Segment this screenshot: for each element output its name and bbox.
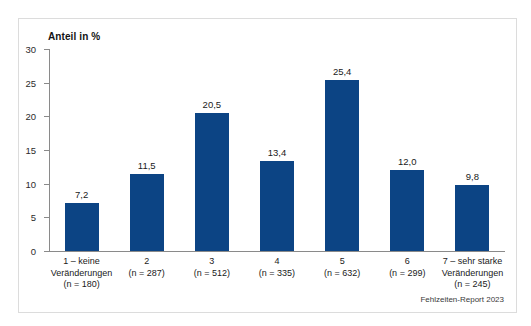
bar: 25,4 — [325, 80, 359, 251]
chart-figure: Anteil in % 051015202530 7,211,520,513,4… — [18, 18, 517, 313]
y-axis-tick-label: 5 — [31, 212, 36, 223]
bar-value-label: 20,5 — [203, 99, 222, 110]
bar-value-label: 11,5 — [138, 160, 156, 171]
y-axis-tick: 20 — [44, 116, 49, 117]
x-axis-category-label: 7 – sehr starkeVeränderungen(n = 245) — [434, 256, 511, 291]
y-axis-tick: 30 — [44, 49, 49, 50]
plot-area: 051015202530 7,211,520,513,425,412,09,8 … — [49, 49, 505, 251]
x-axis-category-line: (n = 245) — [434, 279, 511, 291]
y-axis-tick-label: 30 — [25, 44, 36, 55]
y-axis-title: Anteil in % — [48, 31, 100, 42]
y-axis-tick-label: 15 — [25, 145, 36, 156]
source-note: Fehlzeiten-Report 2023 — [420, 295, 504, 304]
y-axis-tick-label: 20 — [25, 111, 36, 122]
bar-value-label: 12,0 — [398, 156, 417, 167]
y-axis-tick-label: 0 — [31, 246, 36, 257]
bar: 13,4 — [260, 161, 294, 251]
x-axis-line — [49, 251, 505, 252]
y-axis-tick-label: 10 — [25, 178, 36, 189]
bar: 12,0 — [390, 170, 424, 251]
x-axis-category-line: Veränderungen — [434, 268, 511, 280]
y-axis-tick-label: 25 — [25, 77, 36, 88]
bar: 9,8 — [455, 185, 489, 251]
bar: 11,5 — [130, 174, 164, 251]
y-axis-tick: 5 — [44, 217, 49, 218]
bar-value-label: 25,4 — [333, 66, 352, 77]
y-axis-tick: 0 — [44, 251, 49, 252]
x-axis-category-line: 7 – sehr starke — [434, 256, 511, 268]
bar-value-label: 7,2 — [75, 189, 88, 200]
y-axis-tick: 10 — [44, 184, 49, 185]
y-axis-line — [49, 49, 50, 251]
bar-value-label: 9,8 — [466, 171, 479, 182]
bar: 20,5 — [195, 113, 229, 251]
bar: 7,2 — [65, 203, 99, 251]
x-axis-category-line: (n = 180) — [43, 279, 120, 291]
bar-value-label: 13,4 — [268, 147, 287, 158]
y-axis-tick: 25 — [44, 83, 49, 84]
y-axis-tick: 15 — [44, 150, 49, 151]
